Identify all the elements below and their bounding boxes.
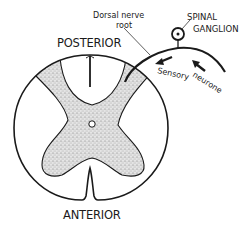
spinal-ganglion-label-line1: SPINAL [187,12,217,22]
neurone-label: neurone [191,70,224,95]
spinal-ganglion [172,28,184,48]
dorsal-root-label-line1: Dorsal nerve [93,11,144,20]
central-canal [89,121,95,127]
anterior-label: ANTERIOR [63,208,121,222]
posterior-label: POSTERIOR [57,36,121,50]
dorsal-root-leader-line [124,28,150,55]
gray-matter [35,58,152,176]
sensory-label: Sensory [157,66,191,82]
spinal-cord-diagram: POSTERIOR ANTERIOR Dorsal nerve root SPI… [0,0,251,228]
dorsal-root-label-line2: root [116,21,132,30]
gray-matter-group [35,58,152,176]
spinal-ganglion-label-line2: GANGLION [193,24,239,34]
